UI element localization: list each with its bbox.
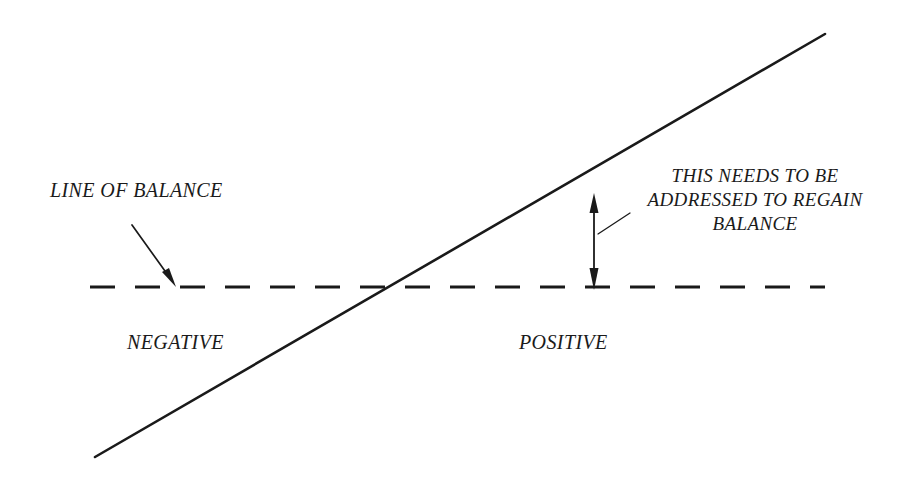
- deviation-double-arrow: [590, 193, 599, 290]
- line-of-balance-label: LINE OF BALANCE: [50, 178, 223, 202]
- gap-callout-label: THIS NEEDS TO BE ADDRESSED TO REGAIN BAL…: [637, 164, 873, 236]
- callout-line-1: THIS NEEDS TO BE: [637, 164, 873, 188]
- callout-line-3: BALANCE: [637, 212, 873, 236]
- callout-line-2: ADDRESSED TO REGAIN: [637, 188, 873, 212]
- trend-line: [95, 34, 825, 457]
- positive-region-label: POSITIVE: [519, 330, 608, 354]
- callout-leader-line: [598, 213, 630, 234]
- negative-region-label: NEGATIVE: [127, 330, 224, 354]
- balance-diagram-graphic: [0, 0, 914, 487]
- diagram-canvas: LINE OF BALANCE NEGATIVE POSITIVE THIS N…: [0, 0, 914, 487]
- line-of-balance-pointer-arrow: [132, 225, 176, 287]
- arrowhead-up: [590, 193, 599, 213]
